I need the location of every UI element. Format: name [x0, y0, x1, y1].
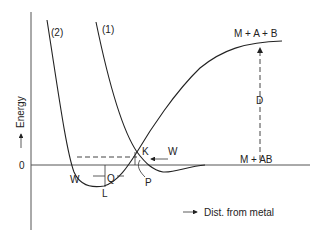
k-label: K	[142, 146, 149, 157]
x-axis-label: Dist. from metal	[204, 207, 274, 218]
w-left-label: W	[70, 174, 80, 185]
p-label: P	[145, 177, 152, 188]
l-label: L	[102, 188, 108, 199]
curve-1-label: (1)	[102, 24, 114, 35]
w-right-label: W	[168, 146, 178, 157]
state-molecular-label: M + AB	[240, 154, 273, 165]
p-leader	[138, 160, 145, 177]
potential-energy-diagram: (2) (1) M + A + B D K W M + AB 0 W Q L P…	[0, 0, 315, 239]
zero-label: 0	[19, 160, 25, 171]
q-label: Q	[107, 173, 115, 184]
curve-1	[96, 22, 205, 172]
y-axis-label: Energy	[15, 96, 26, 128]
curve-2-label: (2)	[51, 27, 63, 38]
state-dissociated-label: M + A + B	[234, 28, 278, 39]
d-label: D	[256, 95, 263, 106]
